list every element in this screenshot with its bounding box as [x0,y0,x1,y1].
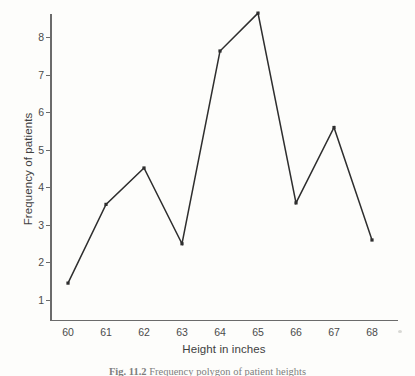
figure-caption: Fig. 11.2 Frequency polygon of patient h… [0,366,415,376]
data-point-marker [332,126,335,129]
frequency-polygon-series [0,0,415,376]
data-point-marker [294,201,297,204]
figure-caption-number: Fig. 11.2 [109,366,147,376]
scan-speck [398,330,402,333]
data-point-marker [180,242,183,245]
data-point-marker [370,238,373,241]
data-point-marker [66,282,69,285]
chart-plot-area: 12345678 606162636465666768 Frequency of… [0,0,415,376]
y-axis-title: Frequency of patients [22,69,34,269]
figure-page: 12345678 606162636465666768 Frequency of… [0,0,415,376]
x-axis-title: Height in inches [50,343,398,355]
data-point-marker [142,166,145,169]
data-point-marker [218,49,221,52]
data-point-marker [256,12,259,15]
data-point-marker [104,203,107,206]
figure-caption-text: Frequency polygon of patient heights [149,366,306,376]
